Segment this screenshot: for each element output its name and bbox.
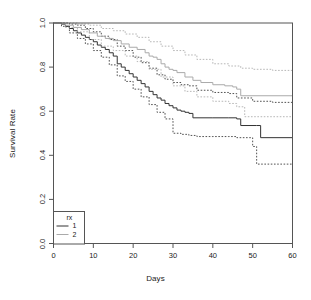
curve-1-lower-ci bbox=[54, 23, 293, 164]
x-tick-label: 0 bbox=[51, 251, 55, 260]
curve-1-upper-ci bbox=[54, 23, 293, 102]
legend-label-2: 2 bbox=[73, 231, 77, 238]
y-tick-label: 0.8 bbox=[37, 62, 46, 72]
curve-2 bbox=[54, 23, 293, 96]
x-tick-label: 40 bbox=[209, 251, 217, 260]
x-tick-label: 30 bbox=[169, 251, 177, 260]
y-tick-label: 0.4 bbox=[37, 150, 46, 160]
plot-box bbox=[54, 23, 293, 244]
legend-label-1: 1 bbox=[73, 222, 77, 229]
plot-frame bbox=[54, 23, 293, 244]
legend-title: rx bbox=[67, 214, 73, 221]
x-tick-label: 50 bbox=[248, 251, 256, 260]
x-tick-label: 10 bbox=[89, 251, 97, 260]
curves-layer bbox=[54, 23, 293, 164]
y-tick-label: 0.0 bbox=[37, 238, 46, 248]
plot-canvas bbox=[0, 0, 311, 300]
survival-plot-figure: Days Survival Rate 0102030405060 0.00.20… bbox=[0, 0, 311, 300]
y-axis-label: Survival Rate bbox=[8, 84, 17, 184]
x-tick-label: 60 bbox=[288, 251, 296, 260]
y-tick-label: 0.6 bbox=[37, 106, 46, 116]
x-tick-label: 20 bbox=[129, 251, 137, 260]
y-tick-label: 0.2 bbox=[37, 194, 46, 204]
axis-ticks bbox=[49, 23, 293, 248]
y-tick-label: 1.0 bbox=[37, 18, 46, 28]
x-axis-label: Days bbox=[0, 274, 311, 283]
